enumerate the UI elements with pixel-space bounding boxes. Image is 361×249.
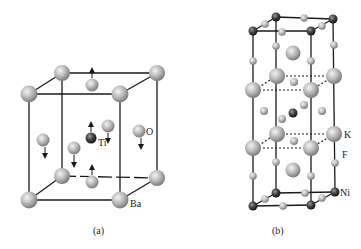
ba-atom [21,86,38,103]
ni-atom [249,202,258,211]
o-atom [37,134,50,147]
ba-atom [54,65,70,81]
k-atom [245,140,261,156]
f-atom [300,14,308,22]
ni-atom [272,13,281,22]
caption-b: (b) [272,225,284,237]
k-atom [269,126,285,142]
ba-atom [21,192,38,209]
label-k: K [344,129,352,140]
ni-atom [329,15,338,24]
o-atom [86,79,99,92]
f-atom [261,195,269,203]
label-f: F [342,149,348,160]
label-ni: Ni [340,187,350,198]
ba-atom [54,168,70,184]
k-atom [326,68,342,84]
f-atom [318,194,326,202]
ba-atom [112,192,129,209]
label-ti: Ti [98,137,107,148]
k-atom [303,140,319,156]
ti-atom [86,133,97,144]
f-atom [249,57,257,65]
figure-a-perovskite: Ti O Ba (a) [21,65,166,237]
ni-atom [272,189,281,198]
f-atom [290,78,298,86]
f-atom [331,159,339,167]
f-atom [301,189,309,197]
label-o: O [146,126,153,137]
crystal-structures-figure: Ti O Ba (a) [0,0,361,249]
k-atom [326,126,342,142]
f-atom [290,137,298,145]
o-atom [102,120,115,133]
o-atom [68,142,81,155]
ni-atom [249,27,258,36]
f-atom [307,172,315,180]
k-atom [245,82,261,98]
k-atom [286,163,301,178]
edge [62,176,157,178]
ni-atom [331,188,340,197]
k-atom [303,82,319,98]
o-atom [86,176,99,189]
ni-atom [307,201,316,210]
f-atom [300,101,308,109]
figure-b-k2nif4: K F Ni (b) [245,13,352,238]
f-atom [261,20,269,28]
ba-atom [112,86,129,103]
f-atom [249,172,257,180]
f-atom [330,41,338,49]
ba-atom [149,170,165,186]
ni-atom [289,109,298,118]
k-atom [286,46,301,61]
ba-atom [149,65,165,81]
f-atom [279,202,287,210]
caption-a: (a) [93,225,104,237]
f-atom [260,107,268,115]
o-atom [133,125,146,138]
label-ba: Ba [130,198,142,209]
f-atom [278,28,286,36]
f-atom [318,107,326,115]
k-atom [269,68,285,84]
f-atom [318,22,326,30]
f-atom [272,42,280,50]
f-atom [278,115,286,123]
ni-atom [307,27,316,36]
f-atom [272,158,280,166]
f-atom [307,57,315,65]
